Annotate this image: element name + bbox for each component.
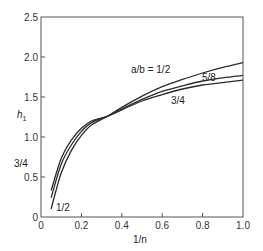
y-axis-ticks: 00.51.01.52.02.5 [24, 12, 45, 223]
left-label-half: 1/2 [56, 202, 70, 213]
y-tick-label: 2.5 [24, 12, 38, 23]
x-tick-label: 0.4 [115, 220, 129, 231]
y-tick-label: 1.5 [24, 92, 38, 103]
curve-label-half: a/b = 1/2 [131, 64, 171, 75]
x-axis-ticks: 00.20.40.60.81.0 [38, 213, 250, 231]
y-tick-label: 2.0 [24, 52, 38, 63]
plot-frame [41, 17, 243, 217]
curve-label-three-quarters: 3/4 [171, 95, 185, 106]
y-tick-label: 1.0 [24, 132, 38, 143]
curve-series-0 [51, 63, 243, 209]
x-tick-label: 1.0 [236, 220, 250, 231]
y-tick-label: 0.5 [24, 172, 38, 183]
curve-label-five-eighths: 5/8 [202, 72, 216, 83]
x-tick-label: 0.2 [74, 220, 88, 231]
curves [51, 63, 243, 209]
x-tick-label: 0.6 [155, 220, 169, 231]
x-axis-label: 1/n [133, 234, 147, 245]
x-tick-label: 0.8 [196, 220, 210, 231]
y-tick-label: 0 [32, 212, 38, 223]
y-axis-label: h1 [17, 109, 27, 122]
left-label-three-quarters: 3/4 [14, 158, 28, 169]
x-tick-label: 0 [38, 220, 44, 231]
chart-canvas: 00.20.40.60.81.0 00.51.01.52.02.5 a/b = … [0, 0, 263, 251]
